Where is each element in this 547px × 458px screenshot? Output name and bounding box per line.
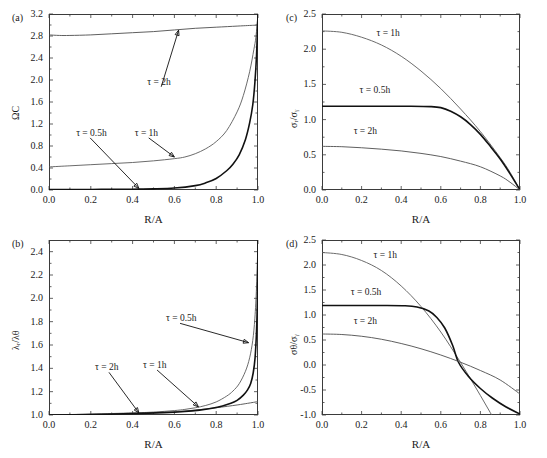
panel-d-plot-area — [322, 240, 520, 415]
panel-d-ytick: 1.0 — [280, 310, 316, 320]
panel-d-xtick: 0.2 — [344, 420, 380, 430]
figure-root: (a)0.00.20.40.60.81.00.00.40.81.21.62.02… — [0, 0, 547, 458]
panel-d-ytick: 1.5 — [280, 285, 316, 295]
panel-d-annotation: τ = 1h — [373, 250, 396, 260]
panel-d-xtick: 0.8 — [462, 420, 498, 430]
chart-panel-d: (d)0.00.20.40.60.81.0-1.0-0.50.00.51.01.… — [0, 0, 547, 458]
panel-d-ytick: 2.0 — [280, 260, 316, 270]
panel-d-xaxis-title: R/A — [381, 438, 461, 450]
panel-d-xtick: 0.6 — [423, 420, 459, 430]
panel-d-yaxis-title: σθ/σᵧ — [288, 334, 299, 355]
panel-d-ytick: -1.0 — [280, 410, 316, 420]
panel-d-xtick: 0.4 — [383, 420, 419, 430]
panel-d-annotation: τ = 0.5h — [351, 287, 382, 297]
panel-d-annotation: τ = 2h — [354, 316, 377, 326]
panel-d-ytick: 0.0 — [280, 360, 316, 370]
panel-d-ytick: 2.5 — [280, 235, 316, 245]
panel-d-xtick: 1.0 — [502, 420, 538, 430]
panel-d-xtick: 0.0 — [304, 420, 340, 430]
panel-d-ytick: -0.5 — [280, 385, 316, 395]
